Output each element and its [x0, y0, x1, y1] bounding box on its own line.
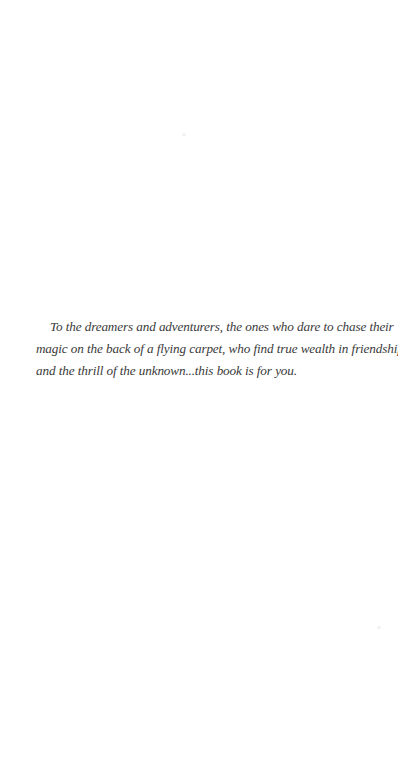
scan-artifact: [377, 626, 381, 629]
scan-artifact: [182, 133, 186, 136]
dedication-text: To the dreamers and adventurers, the one…: [36, 316, 376, 382]
dedication-line-2: magic on the back of a flying carpet, wh…: [36, 338, 376, 360]
dedication-line-3: and the thrill of the unknown...this boo…: [36, 360, 376, 382]
dedication-line-1: To the dreamers and adventurers, the one…: [36, 316, 376, 338]
book-page: To the dreamers and adventurers, the one…: [0, 0, 398, 771]
